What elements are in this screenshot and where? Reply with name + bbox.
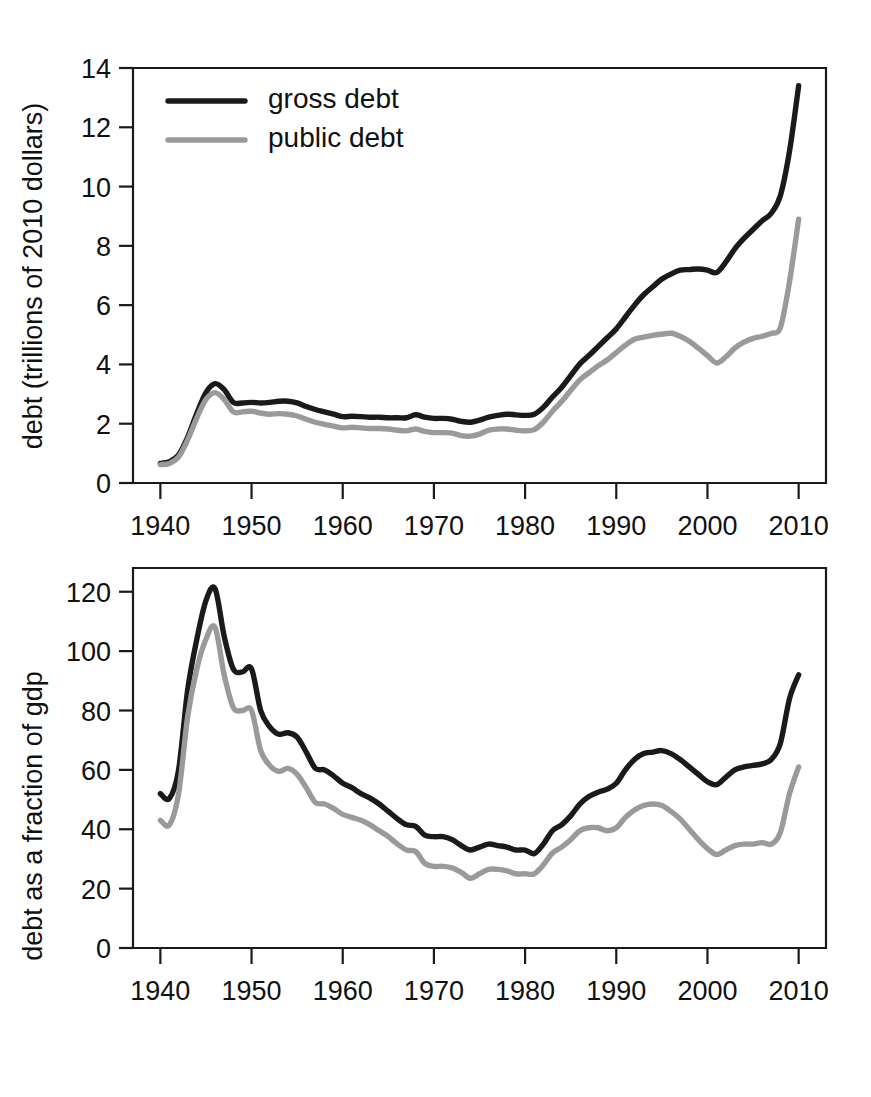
- legend-label-gross-debt: gross debt: [268, 83, 399, 114]
- top-axis-tick-labels: 0246810121419401950196019701980199020002…: [81, 54, 829, 541]
- x-tick-label: 2010: [769, 976, 829, 1006]
- x-tick-label: 1940: [130, 976, 190, 1006]
- legend-label-public-debt: public debt: [268, 122, 404, 153]
- y-tick-label: 2: [96, 410, 111, 440]
- top-series-public-debt: [160, 219, 798, 464]
- y-tick-label: 0: [96, 934, 111, 964]
- x-tick-label: 1960: [313, 976, 373, 1006]
- top-series-gross-debt: [160, 86, 798, 464]
- x-tick-label: 1950: [222, 511, 282, 541]
- x-tick-label: 1990: [586, 511, 646, 541]
- x-tick-label: 1970: [404, 976, 464, 1006]
- legend: gross debt public debt: [168, 83, 404, 153]
- x-tick-label: 2000: [677, 511, 737, 541]
- y-tick-label: 100: [66, 637, 111, 667]
- y-tick-label: 14: [81, 54, 111, 84]
- y-tick-label: 8: [96, 232, 111, 262]
- y-tick-label: 10: [81, 173, 111, 203]
- x-tick-label: 1950: [222, 976, 282, 1006]
- y-tick-label: 6: [96, 291, 111, 321]
- chart-panel-debt-trillions: 0246810121419401950196019701980199020002…: [0, 0, 871, 548]
- x-tick-label: 1960: [313, 511, 373, 541]
- x-tick-label: 1990: [586, 976, 646, 1006]
- x-tick-label: 1980: [495, 976, 555, 1006]
- y-tick-label: 80: [81, 697, 111, 727]
- y-tick-label: 20: [81, 875, 111, 905]
- x-tick-label: 1940: [130, 511, 190, 541]
- bottom-y-axis-title: debt as a fraction of gdp: [18, 671, 48, 961]
- y-tick-label: 4: [96, 350, 111, 380]
- top-chart-svg: 0246810121419401950196019701980199020002…: [0, 0, 871, 548]
- y-tick-label: 0: [96, 469, 111, 499]
- y-tick-label: 60: [81, 756, 111, 786]
- bottom-series-public-debt: [160, 626, 798, 879]
- chart-panel-debt-gdp: 0204060801001201940195019601970198019902…: [0, 548, 871, 1097]
- x-tick-label: 2000: [677, 976, 737, 1006]
- y-tick-label: 120: [66, 578, 111, 608]
- debt-figure: 0246810121419401950196019701980199020002…: [0, 0, 871, 1097]
- bottom-plot-frame: [133, 568, 826, 948]
- bottom-chart-svg: 0204060801001201940195019601970198019902…: [0, 548, 871, 1097]
- top-y-axis-title: debt (trillions of 2010 dollars): [18, 103, 48, 450]
- x-tick-label: 2010: [769, 511, 829, 541]
- x-tick-label: 1970: [404, 511, 464, 541]
- y-tick-label: 40: [81, 815, 111, 845]
- x-tick-label: 1980: [495, 511, 555, 541]
- y-tick-label: 12: [81, 113, 111, 143]
